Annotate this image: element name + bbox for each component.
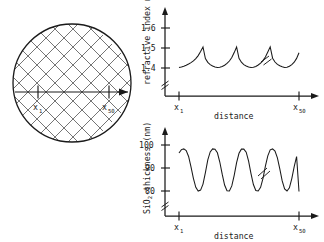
y-axis-arrowhead (162, 127, 168, 135)
y-axis-title: SiO2-thickness (nm) (142, 122, 153, 214)
curve-break-marker-top (261, 56, 272, 65)
refractive-index-chart: 1.6 1.5 1.4 x 1 (136, 0, 324, 121)
svg-text:x: x (293, 102, 298, 112)
refractive-index-curve (179, 47, 299, 68)
svg-text:50: 50 (299, 108, 306, 114)
x-axis-title: distance (214, 231, 254, 241)
xtick-label-x1: x 1 (174, 102, 183, 114)
svg-text:50: 50 (299, 228, 306, 234)
svg-text:x: x (102, 102, 107, 112)
y-axis-arrowhead (162, 7, 168, 15)
y-axis-title-rest: -thickness (nm) (142, 122, 152, 196)
svg-text:x: x (293, 222, 298, 232)
wafer-label-x50: x 50 (102, 102, 115, 114)
x-axis-arrowhead (311, 93, 319, 99)
charts-panel: 1.6 1.5 1.4 x 1 (136, 0, 324, 242)
svg-text:50: 50 (108, 108, 115, 114)
sio2-thickness-chart: 100 90 80 x 1 (136, 116, 324, 242)
svg-text:x: x (33, 102, 38, 112)
svg-text:SiO2-thickness (nm): SiO2-thickness (nm) (142, 122, 153, 214)
wafer-svg: x 1 x 50 (0, 0, 150, 242)
svg-text:x: x (174, 222, 179, 232)
arrow-head (119, 88, 128, 95)
scan-direction-arrow (15, 86, 128, 99)
y-axis-title-base: SiO (142, 199, 152, 214)
svg-text:x: x (174, 102, 179, 112)
x-axis-arrowhead (311, 213, 319, 219)
xtick-label-x1: x 1 (174, 222, 183, 234)
wafer-label-x1: x 1 (33, 102, 42, 114)
bottom-x-axis: x 1 x 50 distance (165, 212, 319, 242)
svg-text:1: 1 (180, 108, 183, 114)
xtick-label-x50: x 50 (293, 222, 306, 234)
y-axis-title: refractive index n (142, 0, 152, 85)
xtick-label-x50: x 50 (293, 102, 306, 114)
svg-text:1: 1 (39, 108, 42, 114)
wafer-panel: x 1 x 50 (0, 0, 150, 242)
wafer-outline (13, 24, 131, 142)
figure-root: x 1 x 50 1.6 1.5 1.4 (0, 0, 324, 242)
svg-text:1: 1 (180, 228, 183, 234)
sio2-thickness-curve (179, 149, 299, 192)
